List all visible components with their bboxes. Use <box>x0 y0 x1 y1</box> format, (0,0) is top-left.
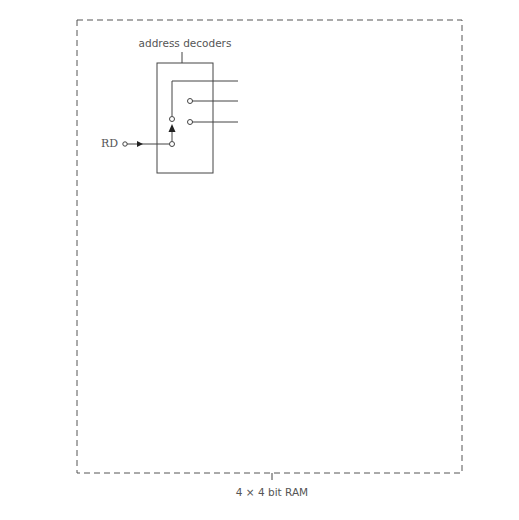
read-switch-common <box>170 142 175 147</box>
address-decoders-label: address decoders <box>139 37 232 49</box>
rd-input-label: RD <box>101 137 118 150</box>
diagram-title: 4 × 4 bit RAM <box>236 486 308 498</box>
ram-diagram: 4 × 4 bit RAM address decoders RD <box>0 0 519 520</box>
read-decoder-box <box>157 63 213 173</box>
rd-input-terminal[interactable] <box>123 142 127 146</box>
ram-boundary <box>77 20 462 473</box>
arrow-icon <box>137 141 143 147</box>
